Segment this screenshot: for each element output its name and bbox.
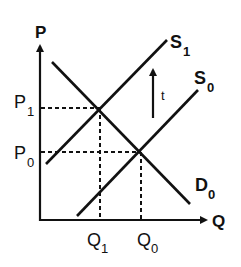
tax-shift-label: t: [161, 88, 165, 103]
svg-text:P: P: [14, 92, 26, 112]
demand-curve-d0: [52, 62, 190, 204]
svg-text:0: 0: [208, 187, 215, 202]
svg-text:Q: Q: [137, 230, 151, 250]
supply-curve-s0: [77, 90, 198, 216]
supply-curve-s1: [46, 40, 167, 164]
supply-demand-diagram: P Q t S 1 S 0 D 0 P 1 P 0 Q 1 Q 0: [0, 0, 241, 267]
x-axis-label: Q: [212, 212, 225, 231]
p0-label: P 0: [14, 143, 34, 170]
svg-text:0: 0: [151, 241, 158, 256]
y-axis-label: P: [35, 23, 46, 42]
s1-label: S 1: [170, 32, 190, 59]
q0-label: Q 0: [137, 230, 158, 256]
svg-text:1: 1: [183, 44, 190, 59]
p1-label: P 1: [14, 92, 34, 119]
q1-label: Q 1: [87, 230, 108, 256]
svg-text:S: S: [194, 68, 206, 88]
svg-text:1: 1: [27, 104, 34, 119]
svg-text:1: 1: [101, 241, 108, 256]
svg-text:Q: Q: [87, 230, 101, 250]
svg-text:0: 0: [27, 155, 34, 170]
svg-text:0: 0: [207, 80, 214, 95]
svg-text:S: S: [170, 32, 182, 52]
d0-label: D 0: [195, 175, 215, 202]
svg-text:D: D: [195, 175, 208, 195]
svg-text:P: P: [14, 143, 26, 163]
